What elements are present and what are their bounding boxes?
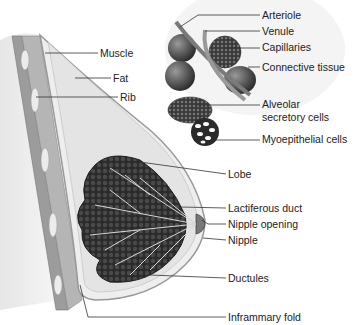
label-lactiferous-duct: Lactiferous duct: [228, 203, 302, 214]
label-connective-tissue: Connective tissue: [262, 62, 345, 73]
label-nipple-opening: Nipple opening: [228, 219, 298, 230]
label-lobe: Lobe: [228, 169, 251, 180]
label-nipple: Nipple: [228, 235, 258, 246]
label-rib: Rib: [120, 92, 136, 103]
label-venule: Venule: [262, 26, 294, 37]
label-myoepithelial-cells: Myoepithelial cells: [262, 134, 347, 145]
inset-alveoli: [165, 0, 345, 146]
label-capillaries: Capillaries: [262, 42, 311, 53]
label-ductules: Ductules: [228, 273, 269, 284]
label-inframmary-fold: Inframmary fold: [228, 312, 301, 323]
label-fat: Fat: [113, 73, 128, 84]
label-muscle: Muscle: [100, 48, 133, 59]
label-alveolar-line1: Alveolar: [262, 99, 300, 110]
breast-anatomy-diagram: Muscle Fat Rib Arteriole Venule Capillar…: [0, 0, 355, 325]
label-arteriole: Arteriole: [262, 10, 301, 21]
label-alveolar-line2: secretory cells: [262, 112, 329, 123]
